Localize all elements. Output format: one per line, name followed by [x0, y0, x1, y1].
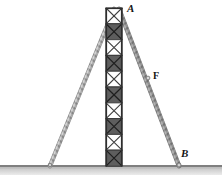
- cable-right: [118, 9, 180, 166]
- tower-diagram: [0, 0, 222, 180]
- label-point-b: B: [181, 148, 188, 159]
- tower-panels: [106, 8, 122, 166]
- lattice-tower: [105, 8, 122, 166]
- label-force-f: F: [153, 71, 159, 81]
- label-point-a: A: [127, 3, 134, 14]
- anchor-point-left: [48, 163, 52, 167]
- force-point-marker: [146, 76, 150, 80]
- anchor-point-b: [177, 163, 181, 167]
- cable-left: [49, 9, 115, 166]
- figure-container: A F B: [0, 0, 222, 180]
